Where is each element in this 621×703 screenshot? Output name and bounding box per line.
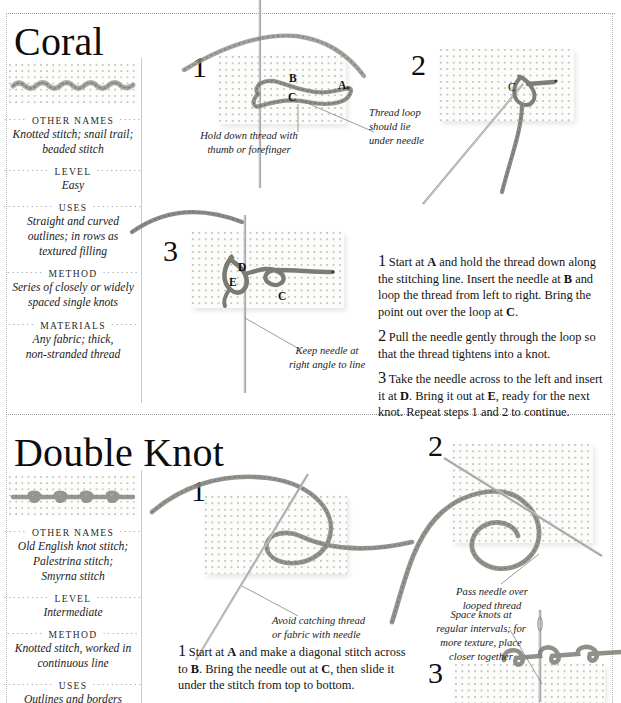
step-text: Pull the needle gently through the loop … <box>378 330 596 361</box>
dot-leader-right: ··········· <box>92 680 143 689</box>
point-label-C-coral-2: C <box>508 82 516 94</box>
field-head: ····· Other Names ····· <box>8 527 138 538</box>
dot-leader-left: ·········· <box>4 593 50 602</box>
instructions-double-knot: 1Start at A and make a diagonal stitch a… <box>178 643 410 702</box>
dot-leader-left: ······ <box>8 320 36 329</box>
caption-coral-keep-needle: Keep needle at right angle to line <box>268 344 386 372</box>
field-method-coral: ········ Method ········ Series of close… <box>8 268 138 310</box>
field-value: Knotted stitch, worked in continuous lin… <box>8 641 138 671</box>
point-label-C-coral-3: C <box>278 291 286 303</box>
field-head: ······ Materials ······ <box>8 320 138 331</box>
step-number: 3 <box>378 368 389 387</box>
dot-leader-right: ········ <box>102 268 139 277</box>
thread-sample <box>9 77 137 92</box>
instruction-step-3-coral: 3Take the needle across to the left and … <box>378 370 604 421</box>
field-value: Old English knot stitch; Palestrina stit… <box>8 539 138 584</box>
dot-leader-right: ····· <box>119 115 142 124</box>
point-label-D-coral-3: D <box>238 262 246 274</box>
step-text: Start at A and make a diagonal stitch ac… <box>178 645 406 692</box>
step-text: Take the needle across to the left and i… <box>378 372 603 419</box>
dot-leader-left: ··········· <box>3 202 54 211</box>
thread-arc-coral-top <box>178 18 378 78</box>
leader-double-2 <box>495 554 545 588</box>
field-method-double: ········ Method ········ Knotted stitch,… <box>8 629 138 671</box>
dot-leader-left: ·········· <box>4 166 50 175</box>
sidebar-coral: ····· Other Names ····· Knotted stitch; … <box>8 64 138 371</box>
stitch-illustration-coral-3 <box>205 246 345 308</box>
stitch-title-double-knot: Double Knot <box>14 429 224 476</box>
field-head: ··········· Uses ··········· <box>8 202 138 213</box>
field-value: Straight and curved outlines; in rows as… <box>8 214 138 259</box>
step-number: 1 <box>378 251 389 270</box>
dot-leader-right: ·········· <box>96 593 142 602</box>
dot-leader-left: ········ <box>7 268 44 277</box>
dot-leader-right: ········ <box>102 629 139 638</box>
field-level-double: ·········· Level ·········· Intermediate <box>8 593 138 620</box>
stitch-title-coral: Coral <box>14 18 104 65</box>
step-number: 1 <box>178 641 189 660</box>
dot-leader-left: ··········· <box>3 680 54 689</box>
instruction-step-1-coral: 1Start at A and hold the thread down alo… <box>378 253 604 320</box>
instruction-step-1-double: 1Start at A and make a diagonal stitch a… <box>178 643 410 694</box>
field-materials-coral: ······ Materials ······ Any fabric; thic… <box>8 320 138 362</box>
field-uses-coral: ··········· Uses ··········· Straight an… <box>8 202 138 259</box>
field-level-coral: ·········· Level ·········· Easy <box>8 166 138 193</box>
field-head: ····· Other Names ····· <box>8 115 138 126</box>
swatch-coral <box>9 64 137 104</box>
field-head: ········ Method ········ <box>8 268 138 279</box>
field-value: Intermediate <box>8 605 138 620</box>
thread-sample <box>9 489 137 504</box>
section-coral: Coral ····· Other Names ····· <box>0 0 621 414</box>
point-label-E-coral-3: E <box>229 277 237 289</box>
field-value: Knotted stitch; snail trail; beaded stit… <box>8 127 138 157</box>
field-value: Easy <box>8 178 138 193</box>
step-text: Start at A and hold the thread down alon… <box>378 255 596 319</box>
point-label-B-coral-1: B <box>289 73 297 85</box>
sidebar-double-knot: ····· Other Names ····· Old English knot… <box>8 476 138 703</box>
dot-leader-right: ····· <box>119 527 142 536</box>
dot-leader-left: ····· <box>4 527 27 536</box>
field-head: ·········· Level ·········· <box>8 593 138 604</box>
step-number-2-coral: 2 <box>411 50 426 80</box>
field-uses-double: ··········· Uses ··········· Outlines an… <box>8 680 138 703</box>
caption-coral-hold-thread: Hold down thread with thumb or forefinge… <box>178 129 320 157</box>
point-label-C-coral-1: C <box>288 92 296 104</box>
caption-double-space-knots: Space knots at regular intervals; for mo… <box>420 608 542 664</box>
step-number: 2 <box>378 326 389 345</box>
field-value: Any fabric; thick, non-stranded thread <box>8 332 138 362</box>
swatch-double-knot <box>9 476 137 516</box>
needle-double-2 <box>440 446 610 566</box>
thread-arc-coral-3 <box>130 180 260 240</box>
dot-leader-right: ·········· <box>96 166 142 175</box>
point-label-A-coral-1: A <box>338 80 346 92</box>
field-value: Outlines and borders <box>8 692 138 703</box>
step-number-3-coral: 3 <box>163 236 178 266</box>
instruction-step-2-coral: 2Pull the needle gently through the loop… <box>378 328 604 362</box>
instructions-coral: 1Start at A and hold the thread down alo… <box>378 253 604 429</box>
field-head: ··········· Uses ··········· <box>8 680 138 691</box>
field-value: Series of closely or widely spaced singl… <box>8 280 138 310</box>
field-head: ·········· Level ·········· <box>8 166 138 177</box>
stitch-illustration-coral-2 <box>492 60 572 210</box>
dot-leader-right: ······ <box>111 320 139 329</box>
field-other-names-coral: ····· Other Names ····· Knotted stitch; … <box>8 115 138 157</box>
sidebar-divider-double <box>141 470 142 703</box>
field-head: ········ Method ········ <box>8 629 138 640</box>
caption-double-avoid-catching: Avoid catching thread or fabric with nee… <box>272 614 400 642</box>
book-page: Coral ····· Other Names ····· <box>0 0 621 703</box>
section-double-knot: Double Knot ····· Other Names ····· Old … <box>0 414 621 703</box>
dot-leader-left: ········ <box>7 629 44 638</box>
dot-leader-left: ····· <box>4 115 27 124</box>
field-other-names-double: ····· Other Names ····· Old English knot… <box>8 527 138 584</box>
